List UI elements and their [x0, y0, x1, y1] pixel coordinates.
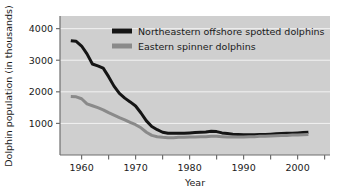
y-tick-label: 3000: [29, 55, 53, 66]
x-tick-label: 1990: [232, 162, 256, 173]
x-tick-label: 1960: [70, 162, 94, 173]
x-axis-title: Year: [184, 177, 205, 188]
x-tick-label: 1980: [178, 162, 202, 173]
y-tick-label: 2000: [29, 86, 53, 97]
y-axis-title: Dolphin population (in thousands): [3, 5, 14, 167]
x-tick-label: 2000: [286, 162, 310, 173]
legend-label-1: Northeastern offshore spotted dolphins: [138, 26, 325, 37]
y-tick-label: 1000: [29, 118, 53, 129]
x-tick-label: 1970: [124, 162, 148, 173]
dolphin-population-line-chart: 1000200030004000 19601970198019902000 No…: [0, 0, 338, 193]
y-tick-label: 4000: [29, 23, 53, 34]
legend-label-2: Eastern spinner dolphins: [138, 41, 256, 52]
